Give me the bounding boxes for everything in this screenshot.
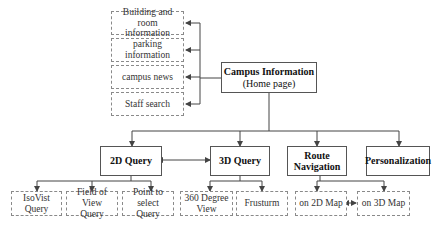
module-personalization: Personalization	[366, 146, 430, 176]
module-personalization-label: Personalization	[365, 155, 431, 167]
sub-on-2d-map-label: on 2D Map	[299, 198, 342, 209]
sub-360-line2: View	[196, 204, 216, 215]
sub-360-line1: 360 Degree	[184, 193, 228, 204]
info-campus-news-label: campus news	[122, 72, 173, 83]
sub-on-3d-map-label: on 3D Map	[362, 198, 405, 209]
sub-frusturm: Frusturm	[236, 191, 288, 216]
module-2d-query: 2D Query	[100, 146, 162, 176]
info-building-room-line1: Building and room	[112, 7, 183, 29]
sub-fov-line1: Field of View	[67, 187, 117, 209]
info-staff-search: Staff search	[111, 92, 184, 116]
sub-point-line2: Query	[136, 209, 160, 220]
sub-on-3d-map: on 3D Map	[357, 191, 410, 216]
info-building-room: Building and room information	[111, 11, 184, 35]
info-parking: parking information	[111, 38, 184, 62]
root-subtitle: (Home page)	[243, 78, 295, 90]
info-staff-search-label: Staff search	[125, 99, 170, 110]
module-3d-query-label: 3D Query	[219, 155, 261, 167]
module-route-navigation: Route Navigation	[287, 146, 347, 176]
module-route-line1: Route	[304, 150, 330, 162]
root-campus-information: Campus Information (Home page)	[221, 62, 317, 93]
sub-point-to-select-query: Point to select Query	[122, 191, 174, 216]
info-campus-news: campus news	[111, 65, 184, 89]
info-parking-label: parking information	[112, 39, 183, 61]
module-route-line2: Navigation	[294, 161, 341, 173]
sub-isovist-query: IsoVist Query	[11, 191, 62, 216]
sub-360-degree-view: 360 Degree View	[180, 191, 233, 216]
sub-field-of-view-query: Field of View Query	[66, 191, 118, 216]
module-2d-query-label: 2D Query	[110, 155, 152, 167]
root-title: Campus Information	[224, 66, 314, 78]
sub-point-line1: Point to select	[123, 187, 173, 209]
sub-on-2d-map: on 2D Map	[295, 191, 347, 216]
sub-isovist-label: IsoVist Query	[12, 193, 61, 215]
sub-frusturm-label: Frusturm	[245, 198, 280, 209]
module-3d-query: 3D Query	[210, 146, 270, 176]
sub-fov-line2: Query	[80, 209, 104, 220]
